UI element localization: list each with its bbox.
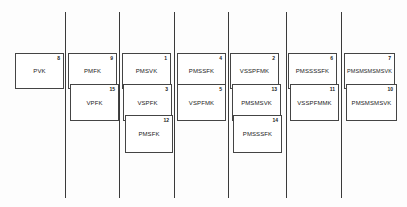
node-label: PMSMSMSMSVK — [345, 68, 394, 74]
node-number: 5 — [219, 86, 222, 92]
node-label: PMSSSSFK — [289, 68, 336, 74]
node-number: 4 — [219, 55, 222, 61]
node-number: 3 — [165, 86, 168, 92]
column-divider-2 — [119, 12, 120, 198]
node-number: 11 — [330, 86, 335, 92]
node-label: VSPFMK — [178, 100, 225, 106]
node-label: PMSSSFK — [234, 131, 281, 137]
node-number: 10 — [387, 86, 393, 92]
node-box: 5 VSPFMK — [177, 84, 226, 121]
node-number: 13 — [271, 86, 277, 92]
node-box: 12 PMSFK — [125, 115, 173, 153]
node-number: 9 — [110, 55, 113, 61]
node-number: 8 — [57, 55, 60, 61]
node-label: VSSPFMK — [231, 68, 278, 74]
node-label: PMFK — [69, 68, 116, 74]
node-label: PMSFK — [126, 131, 172, 137]
column-divider-1 — [65, 12, 66, 198]
node-number: 2 — [272, 55, 275, 61]
node-label: PMSMSMSVK — [347, 100, 396, 106]
node-label: VSSPFMMK — [291, 100, 338, 106]
node-label: VSPFK — [124, 100, 171, 106]
column-divider-6 — [341, 12, 342, 198]
node-number: 12 — [163, 117, 169, 123]
node-label: PMSSFK — [178, 68, 225, 74]
column-divider-4 — [228, 12, 229, 198]
node-number: 15 — [109, 86, 115, 92]
column-divider-3 — [174, 12, 175, 198]
node-box: 15 VPFK — [70, 84, 119, 121]
node-box: 11 VSSPFMMK — [290, 84, 339, 121]
node-box: 8 PVK — [15, 53, 64, 89]
node-box: 14 PMSSSFK — [233, 115, 282, 153]
column-divider-5 — [286, 12, 287, 198]
node-number: 14 — [272, 117, 278, 123]
node-label: PVK — [16, 68, 63, 74]
node-label: VPFK — [71, 100, 118, 106]
node-label: PMSMSVK — [233, 100, 280, 106]
node-box: 10 PMSMSMSVK — [346, 84, 397, 121]
node-number: 7 — [388, 55, 391, 61]
node-label: PMSVK — [123, 68, 170, 74]
node-number: 6 — [330, 55, 333, 61]
node-number: 1 — [164, 55, 167, 61]
